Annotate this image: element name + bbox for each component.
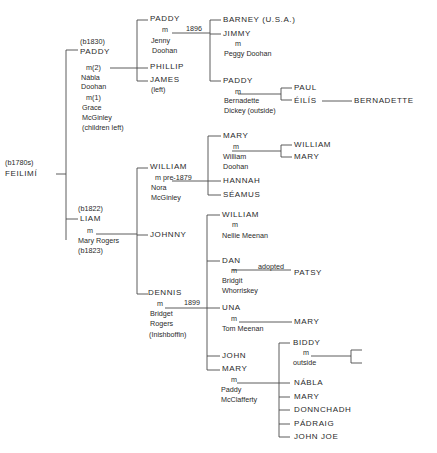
marriage-label: m [231,266,237,276]
person-name: BERNADETTE [354,96,414,106]
note: (children left) [82,123,124,133]
person-name: MARY [294,152,319,162]
person-name: SÉAMUS [223,190,260,200]
spouse-name: Tom Meenan [222,324,264,334]
person-name: PADDY [150,14,180,24]
spouse-name: Grace [82,103,102,113]
spouse-name: McClafferty [221,395,257,405]
spouse-name: Doohan [81,82,106,92]
person-name: LIAM [80,214,101,224]
person-name: BIDDY [293,338,320,348]
person-name: MARY [223,131,248,141]
person-name: PATSY [294,268,322,278]
marriage-label: m [232,220,238,230]
person-name: MARY [222,364,247,374]
person-name: MARY [294,392,319,402]
marriage-label: m pre-1879 [155,173,192,183]
person-name: JAMES [150,75,180,85]
person-name: PAUL [294,83,317,93]
spouse-name: Paddy [221,385,241,395]
person-name: DAN [222,256,241,266]
person-name: DONNCHADH [294,405,351,415]
person-name: PHILLIP [150,62,184,72]
spouse-name: Nellie Meenan [222,231,268,241]
person-name: PADDY [223,76,253,86]
marriage-label: m [303,348,309,358]
spouse-name: Dickey (outside) [224,106,276,116]
person-name: DENNIS [148,288,182,298]
person-name: JOHNNY [150,230,187,240]
spouse-name: Bernadette [224,96,259,106]
person-name: JOHN JOE [294,432,338,442]
marriage-label: m [162,25,168,35]
person-name: WILLIAM [294,140,331,150]
person-name: PÁDRAIG [294,419,334,429]
person-name: ÉILÍS [294,96,317,106]
spouse-name: Peggy Doohan [224,49,272,59]
spouse-name: Bridgit [222,276,242,286]
spouse-born: (b1823) [78,246,103,256]
spouse-name: McGinley [82,113,112,123]
marriage-year: 1896 [186,24,202,34]
marriage-label: m [233,142,239,152]
person-name: PADDY [80,47,110,57]
person-name: UNA [222,303,241,313]
family-tree-diagram: (b1780s) FEILIMÍ (b1830) PADDY m(2) Nábl… [0,0,437,453]
person-name: NÁBLA [294,378,323,388]
note: (left) [151,85,165,95]
marriage-label: m [157,299,163,309]
spouse-name: Jenny [151,36,170,46]
spouse-name: Nora [151,183,167,193]
marriage-label: m [231,314,237,324]
adopted-label: adopted [258,262,284,272]
spouse-name: Whorriskey [222,286,258,296]
connector-lines [0,0,437,453]
person-name: HANNAH [223,176,260,186]
marriage-label: m [235,39,241,49]
marriage-label: m [231,375,237,385]
spouse-name: McGinley [151,193,181,203]
person-name: WILLIAM [150,162,187,172]
spouse-name: Mary Rogers [78,236,119,246]
marriage-year: 1899 [184,298,200,308]
spouse-name: outside [293,358,316,368]
person-name: MARY [294,317,319,327]
root-born: (b1780s) [5,158,33,168]
root-name: FEILIMÍ [5,169,37,179]
person-name: JOHN [222,351,246,361]
spouse-name: Rogers [150,319,173,329]
person-name: JIMMY [223,29,251,39]
person-name: BARNEY (U.S.A.) [223,15,295,25]
spouse-name: William [223,152,246,162]
marriage-label: m [87,226,93,236]
person-born: (b1830) [80,37,105,47]
spouse-name: Doohan [152,46,177,56]
marriage-label: m(2) [86,63,101,73]
spouse-name: Bridget [150,309,173,319]
person-born: (b1822) [78,204,103,214]
marriage-label: m(1) [86,93,101,103]
spouse-note: (Inishboffin) [149,330,186,340]
spouse-name: Doohan [223,162,248,172]
person-name: WILLIAM [222,210,259,220]
